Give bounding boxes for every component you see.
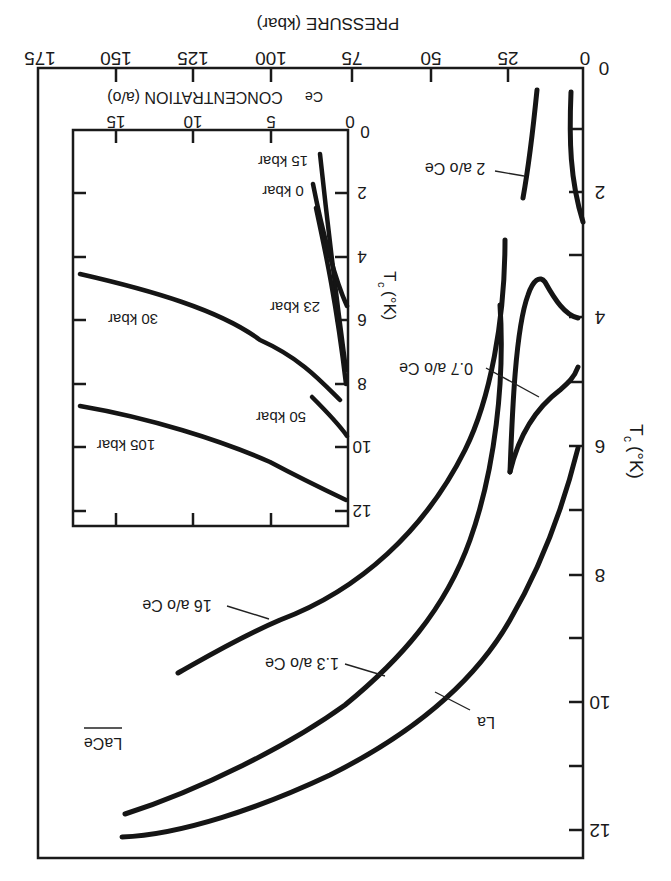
label-la: La	[477, 714, 495, 731]
inset-tc-4: 4	[357, 247, 366, 266]
tc-tick-10: 10	[589, 692, 610, 713]
c-tick-0: 0	[345, 112, 354, 131]
p-tick-150: 150	[100, 48, 132, 69]
svg-text:T: T	[626, 424, 647, 436]
tc-tick-4: 4	[594, 307, 605, 328]
inset-tc-12: 12	[353, 501, 372, 520]
svg-text:c: c	[376, 282, 388, 288]
label-16-ace: 16 a/o Ce	[142, 597, 211, 614]
p-tick-175: 175	[24, 48, 56, 69]
inset-label-15kbar: 15 kbar	[258, 153, 308, 170]
inset-tc-origin: 0	[360, 122, 369, 141]
inset-ce-label: Ce	[305, 89, 323, 105]
inset-label-23kbar: 23 kbar	[270, 299, 320, 316]
svg-text:c: c	[621, 436, 635, 442]
svg-text:T: T	[380, 271, 399, 281]
inset-conc-label: CONCENTRATION (a/o)	[107, 89, 283, 106]
inset-tc-axis-label: T c (°K)	[376, 271, 399, 320]
inset-tc-10: 10	[353, 437, 372, 456]
p-tick-0: 0	[580, 48, 591, 69]
pressure-axis: 0 25 50 75 100 125 150 175 PRESSURE (kba…	[24, 14, 590, 82]
inset-tc-8: 8	[357, 374, 366, 393]
label-0-7-ace: 0.7 a/o Ce	[399, 360, 473, 377]
inset-label-105kbar: 105 kbar	[97, 437, 155, 454]
p-tick-100: 100	[255, 48, 287, 69]
lace-tc-pressure-figure: 0 25 50 75 100 125 150 175 PRESSURE (kba…	[0, 0, 671, 881]
inset-label-0kbar: 0 kbar	[262, 183, 304, 200]
label-2-ace: 2 a/o Ce	[425, 160, 486, 177]
system-label-lace: LaCe	[84, 735, 122, 752]
c-tick-5: 5	[266, 112, 275, 131]
svg-text:(°K): (°K)	[626, 446, 647, 479]
svg-text:(°K): (°K)	[380, 291, 399, 320]
inset-label-50kbar: 50 kbar	[256, 409, 306, 426]
c-tick-15: 15	[107, 112, 126, 131]
inset-label-30kbar: 30 kbar	[108, 311, 158, 328]
tc-tick-2: 2	[595, 182, 606, 203]
tc-tick-8: 8	[595, 565, 606, 586]
tc-origin-0: 0	[599, 58, 610, 79]
p-tick-125: 125	[177, 48, 209, 69]
label-1-3-ace: 1.3 a/o Ce	[265, 655, 339, 672]
p-tick-50: 50	[420, 48, 441, 69]
tc-tick-12: 12	[589, 820, 610, 841]
tc-tick-6: 6	[595, 436, 606, 457]
tc-axis-main: 0 2 4 6 8 10 12 T c (°K)	[569, 58, 647, 841]
curve-0-7-ace-upper	[510, 367, 578, 472]
inset-tc-2: 2	[357, 183, 366, 202]
inset-tc-6: 6	[357, 310, 366, 329]
p-tick-25: 25	[497, 48, 518, 69]
c-tick-10: 10	[184, 112, 203, 131]
pressure-axis-label: PRESSURE (kbar)	[257, 14, 400, 33]
p-tick-75: 75	[341, 48, 362, 69]
tc-axis-label: T c (°K)	[621, 424, 647, 479]
curve-2-ace	[523, 90, 537, 198]
curve-2-ace-branch	[570, 92, 583, 222]
